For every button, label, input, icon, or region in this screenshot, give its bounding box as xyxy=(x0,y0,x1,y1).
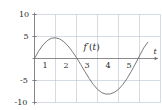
y-tick-label-5: 5 xyxy=(23,33,28,41)
derivative-graph-figure: 10 5 -5 -10 1 2 3 4 5 f′(t) t xyxy=(0,0,162,110)
x-tick-label-4: 4 xyxy=(105,62,110,70)
y-tick-label-10: 10 xyxy=(19,11,29,19)
curve-annotation-arg-var: t xyxy=(93,42,97,52)
axes xyxy=(33,13,159,105)
curve-annotation-arg: (t) xyxy=(89,42,100,52)
curve-annotation-f-prime: f′(t) xyxy=(84,43,100,52)
x-tick-label-5: 5 xyxy=(126,62,131,70)
x-axis-arrowhead xyxy=(155,57,158,60)
x-tick-label-1: 1 xyxy=(42,62,47,70)
x-axis-name-label: t xyxy=(153,48,156,56)
y-tick-label-minus10: -10 xyxy=(15,99,28,107)
y-tick-label-minus5: -5 xyxy=(20,77,28,85)
x-tick-label-2: 2 xyxy=(63,62,68,70)
x-tick-label-3: 3 xyxy=(84,62,89,70)
